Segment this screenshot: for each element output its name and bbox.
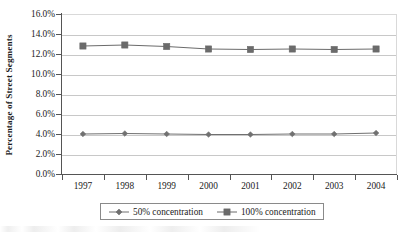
legend-marker-square-marker [216,207,238,217]
legend-label: 50% concentration [133,207,203,217]
x-axis-tick [313,175,314,180]
y-axis-tick [56,174,61,175]
y-axis-tick [56,34,61,35]
x-axis-tick-label: 1997 [74,181,93,191]
square-marker [224,208,230,214]
diamond-marker [373,130,379,136]
legend-marker-diamond-marker [108,207,130,217]
square-marker [122,42,128,48]
y-axis-tick [56,94,61,95]
page-text-artifact [0,226,300,232]
x-axis-tick [397,175,398,180]
y-axis-tick-label: 6.0% [36,109,55,119]
legend-item[interactable]: 100% concentration [216,207,316,217]
x-axis-tick [271,175,272,180]
x-axis-tick-label: 2002 [283,181,302,191]
square-marker [331,46,337,52]
square-marker [289,46,295,52]
x-axis-tick-label: 1998 [116,181,135,191]
x-axis-tick [355,175,356,180]
legend-item[interactable]: 50% concentration [108,207,203,217]
y-axis-tick [56,114,61,115]
diamond-marker [290,131,296,137]
line-chart: Percentage of Street Segments 0.0%2.0%4.… [0,0,407,233]
square-marker [247,46,253,52]
square-marker [373,46,379,52]
series-layer [62,14,397,174]
x-axis-tick [146,175,147,180]
diamond-marker [248,132,254,138]
chart-legend: 50% concentration100% concentration [100,203,324,220]
y-axis-tick [56,74,61,75]
x-axis-tick-label: 2004 [367,181,386,191]
square-marker [164,43,170,49]
y-axis-tick [56,154,61,155]
y-axis-tick [56,54,61,55]
y-axis-title: Percentage of Street Segments [0,0,18,190]
y-axis-tick-label: 10.0% [31,69,55,79]
y-axis-title-text: Percentage of Street Segments [4,34,14,155]
diamond-marker [122,131,128,137]
x-axis-tick-label: 2001 [241,181,260,191]
x-axis-tick-label: 2000 [199,181,218,191]
diamond-marker [80,131,86,137]
y-axis-tick-label: 0.0% [36,169,55,179]
y-axis-tick-label: 8.0% [36,89,55,99]
diamond-marker [116,209,122,215]
x-axis-tick [188,175,189,180]
y-axis-tick-label: 16.0% [31,9,55,19]
diamond-marker [206,132,212,138]
y-axis-tick [56,134,61,135]
x-axis-tick [104,175,105,180]
x-axis-tick [230,175,231,180]
y-axis-tick-label: 4.0% [36,129,55,139]
diamond-marker [164,131,170,137]
y-axis-tick-labels: 0.0%2.0%4.0%6.0%8.0%10.0%12.0%14.0%16.0% [18,14,58,174]
y-axis-tick-label: 2.0% [36,149,55,159]
y-axis-tick-label: 12.0% [31,49,55,59]
diamond-marker [331,131,337,137]
y-axis-tick-label: 14.0% [31,29,55,39]
x-axis-tick-label: 1999 [157,181,176,191]
y-axis-tick [56,14,61,15]
square-marker [205,46,211,52]
x-axis-tick-label: 2003 [325,181,344,191]
x-axis-tick [62,175,63,180]
x-axis-tick-labels: 19971998199920002001200220032004 [62,181,397,197]
legend-label: 100% concentration [241,207,316,217]
square-marker [80,43,86,49]
